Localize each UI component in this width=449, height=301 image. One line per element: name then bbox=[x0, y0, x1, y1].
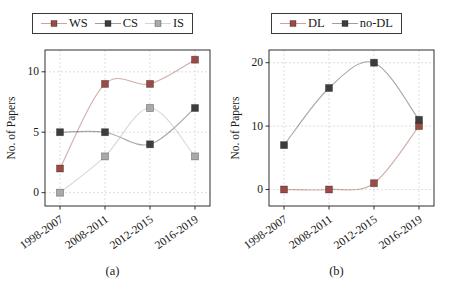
x-tick-label: 2016-2019 bbox=[152, 213, 200, 252]
legend-marker-no-DL bbox=[332, 19, 358, 28]
plot-frame bbox=[45, 50, 210, 206]
marker-DL-1 bbox=[325, 186, 332, 193]
x-tick-label: 2016-2019 bbox=[376, 213, 424, 252]
marker-CS-3 bbox=[191, 105, 198, 112]
legend-entry-no-DL: no-DL bbox=[332, 16, 393, 31]
marker-no-DL-2 bbox=[370, 59, 377, 66]
x-tick-label: 2012-2015 bbox=[331, 213, 379, 252]
x-tick-label: 1998-2007 bbox=[17, 213, 65, 252]
line-chart-b: 010201998-20072008-20112012-20152016-201… bbox=[225, 45, 449, 263]
marker-IS-1 bbox=[101, 153, 108, 160]
x-tick-label: 2008-2011 bbox=[286, 213, 334, 251]
legend-marker-IS bbox=[145, 19, 171, 28]
y-axis-label: No. of Papers bbox=[5, 96, 18, 159]
marker-no-DL-0 bbox=[280, 142, 287, 149]
legend-entry-IS: IS bbox=[145, 16, 184, 31]
series-line-WS bbox=[60, 60, 195, 169]
legend-square bbox=[342, 21, 348, 27]
y-axis-label: No. of Papers bbox=[229, 96, 242, 159]
legend-square bbox=[105, 21, 111, 27]
legend-square bbox=[155, 21, 161, 27]
legend-label-no-DL: no-DL bbox=[360, 16, 393, 31]
legend-entry-WS: WS bbox=[41, 16, 88, 31]
legend-label-WS: WS bbox=[69, 16, 88, 31]
legend-a: WSCSIS bbox=[32, 13, 193, 34]
caption-b: (b) bbox=[329, 264, 344, 279]
line-chart-a: 05101998-20072008-20112012-20152016-2019… bbox=[1, 45, 225, 263]
x-tick-label: 2008-2011 bbox=[62, 213, 110, 251]
legend-label-IS: IS bbox=[173, 16, 184, 31]
marker-DL-0 bbox=[280, 186, 287, 193]
y-tick-label: 0 bbox=[33, 186, 39, 198]
marker-IS-0 bbox=[56, 189, 63, 196]
marker-CS-1 bbox=[101, 129, 108, 136]
y-tick-label: 20 bbox=[251, 56, 263, 68]
chart-panel-b: DLno-DL 010201998-20072008-20112012-2015… bbox=[225, 0, 449, 279]
marker-no-DL-1 bbox=[325, 85, 332, 92]
y-tick-label: 10 bbox=[27, 65, 39, 77]
legend-entry-CS: CS bbox=[95, 16, 138, 31]
series-line-DL bbox=[284, 126, 419, 190]
legend-label-DL: DL bbox=[308, 16, 325, 31]
series-line-no-DL bbox=[284, 62, 419, 145]
x-tick-label: 2012-2015 bbox=[107, 213, 155, 252]
marker-CS-2 bbox=[146, 141, 153, 148]
marker-CS-0 bbox=[56, 129, 63, 136]
marker-no-DL-3 bbox=[415, 116, 422, 123]
legend-marker-CS bbox=[95, 19, 121, 28]
y-tick-label: 5 bbox=[33, 126, 39, 138]
legend-square bbox=[290, 21, 296, 27]
marker-WS-3 bbox=[191, 56, 198, 63]
legend-marker-DL bbox=[280, 19, 306, 28]
legend-entry-DL: DL bbox=[280, 16, 325, 31]
legend-square bbox=[51, 21, 57, 27]
y-tick-label: 10 bbox=[251, 120, 263, 132]
y-tick-label: 0 bbox=[257, 183, 263, 195]
marker-WS-0 bbox=[56, 165, 63, 172]
paper-figure: WSCSIS 05101998-20072008-20112012-201520… bbox=[0, 0, 449, 301]
legend-marker-WS bbox=[41, 19, 67, 28]
chart-panel-a: WSCSIS 05101998-20072008-20112012-201520… bbox=[1, 0, 225, 279]
marker-DL-2 bbox=[370, 180, 377, 187]
series-line-IS bbox=[60, 108, 195, 193]
legend-b: DLno-DL bbox=[271, 13, 402, 34]
plot-frame bbox=[269, 50, 434, 206]
x-tick-label: 1998-2007 bbox=[241, 213, 289, 252]
marker-WS-2 bbox=[146, 80, 153, 87]
caption-a: (a) bbox=[106, 264, 120, 279]
marker-IS-3 bbox=[191, 153, 198, 160]
marker-IS-2 bbox=[146, 105, 153, 112]
legend-label-CS: CS bbox=[123, 16, 138, 31]
marker-WS-1 bbox=[101, 80, 108, 87]
